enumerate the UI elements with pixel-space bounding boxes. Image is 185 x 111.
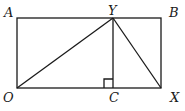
- label-C: C: [109, 90, 119, 105]
- label-Y: Y: [108, 3, 118, 18]
- segment-OY: [17, 18, 113, 88]
- segment-YX: [113, 18, 161, 88]
- label-O: O: [3, 90, 14, 105]
- label-X: X: [169, 90, 180, 105]
- geometry-diagram: A Y B O C X: [0, 0, 185, 111]
- rectangle-OXBA: [17, 18, 161, 88]
- right-angle-mark-C: [104, 79, 113, 88]
- label-A: A: [3, 5, 13, 20]
- label-B: B: [168, 5, 179, 20]
